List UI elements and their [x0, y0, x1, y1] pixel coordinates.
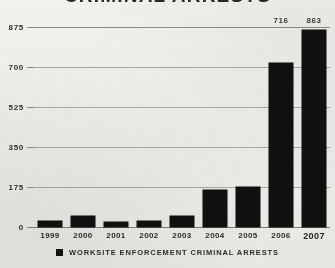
bar-value-2007: 863 — [306, 16, 321, 25]
ytick-525 — [27, 107, 34, 108]
y-axis-label-525: 525 — [9, 103, 24, 112]
x-axis-labels: 1999 2000 2001 2002 2003 2004 2005 2006 … — [34, 231, 330, 241]
bar-2003 — [170, 216, 194, 227]
plot-area: 875 700 525 350 175 0 — [34, 27, 330, 228]
bar-slot-1999 — [38, 27, 62, 227]
y-axis-label-700: 700 — [9, 63, 24, 72]
chart-title-clip: CRIMINAL ARRESTS — [0, 0, 335, 11]
y-axis-label-0: 0 — [19, 223, 24, 232]
ytick-700 — [27, 67, 34, 68]
ytick-350 — [27, 147, 34, 148]
bar-2004 — [203, 190, 227, 227]
x-axis-label-2004: 2004 — [203, 231, 227, 241]
x-axis-label-2000: 2000 — [71, 231, 95, 241]
bar-slot-2000 — [71, 27, 95, 227]
bar-chart: CRIMINAL ARRESTS 875 700 525 350 175 0 — [0, 0, 335, 268]
x-axis-label-2001: 2001 — [104, 231, 128, 241]
chart-legend: Worksite Enforcement Criminal Arrests — [0, 248, 335, 257]
bar-2007 — [302, 30, 326, 227]
bar-2001 — [104, 222, 128, 227]
bar-slot-2005 — [236, 27, 260, 227]
bar-slot-2001 — [104, 27, 128, 227]
x-axis-label-2002: 2002 — [137, 231, 161, 241]
bar-slot-2004 — [203, 27, 227, 227]
bar-2005 — [236, 187, 260, 227]
x-axis-label-2005: 2005 — [236, 231, 260, 241]
x-axis-label-2006: 2006 — [269, 231, 293, 241]
x-axis-label-1999: 1999 — [38, 231, 62, 241]
bar-2000 — [71, 216, 95, 227]
legend-label: Worksite Enforcement Criminal Arrests — [69, 248, 279, 257]
x-axis-label-2007: 2007 — [302, 231, 326, 241]
x-axis-label-2003: 2003 — [170, 231, 194, 241]
bar-2006 — [269, 63, 293, 227]
ytick-875 — [27, 27, 34, 28]
legend-swatch-icon — [56, 249, 63, 256]
y-axis-label-350: 350 — [9, 143, 24, 152]
x-axis-line — [30, 227, 330, 228]
bar-1999 — [38, 221, 62, 227]
bar-slot-2007: 863 — [302, 27, 326, 227]
bar-2002 — [137, 221, 161, 227]
bar-slot-2003 — [170, 27, 194, 227]
bar-group: 716 863 — [34, 27, 330, 227]
bar-slot-2006: 716 — [269, 27, 293, 227]
y-axis-label-175: 175 — [9, 183, 24, 192]
y-axis-label-875: 875 — [9, 23, 24, 32]
bar-slot-2002 — [137, 27, 161, 227]
ytick-175 — [27, 187, 34, 188]
page-title: CRIMINAL ARRESTS — [0, 0, 335, 7]
bar-value-2006: 716 — [273, 16, 288, 25]
